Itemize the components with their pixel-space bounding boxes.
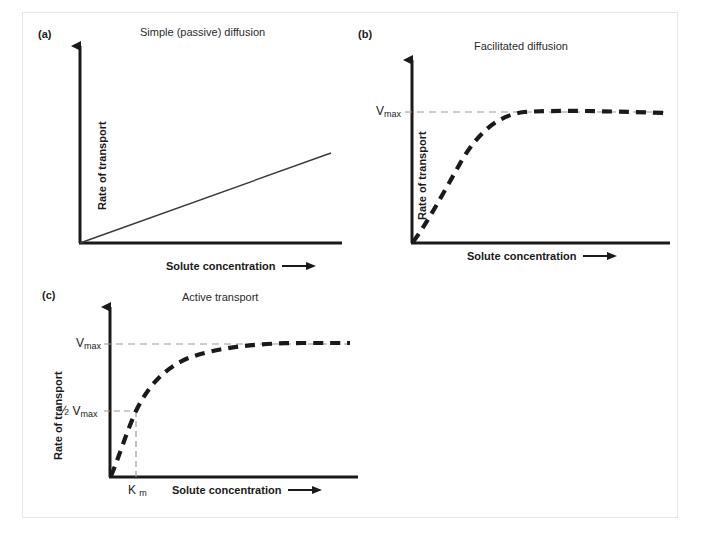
half-vmax-subscript-c: max xyxy=(80,409,97,419)
x-axis-label-text-b: Solute concentration xyxy=(467,250,576,262)
y-axis-label-a: Rate of transport xyxy=(96,121,108,210)
y-axis-label-b: Rate of transport xyxy=(416,131,428,220)
vmax-tick-label-c: Vmax xyxy=(76,336,101,350)
km-subscript-c: m xyxy=(139,488,147,498)
chart-panel-a: (a) Simple (passive) diffusion Rate of t… xyxy=(30,20,360,285)
chart-panel-b: (b) Facilitated diffusion Rate of transp… xyxy=(352,20,682,285)
vmax-subscript-c: max xyxy=(84,341,101,351)
right-arrow-icon xyxy=(583,252,617,261)
panel-letter-c: (c) xyxy=(42,289,55,301)
x-axis-label-b: Solute concentration xyxy=(467,250,617,262)
right-arrow-icon xyxy=(282,262,316,271)
panel-letter-b: (b) xyxy=(358,28,372,40)
chart-panel-c: (c) Active transport Rate of transport V… xyxy=(30,285,400,525)
x-axis-label-text-a: Solute concentration xyxy=(166,260,275,272)
half-vmax-tick-label-c: ½ Vmax xyxy=(58,403,98,418)
figure-root: (a) Simple (passive) diffusion Rate of t… xyxy=(0,0,702,537)
right-arrow-icon xyxy=(288,486,322,495)
half-fraction-glyph-c: ½ xyxy=(58,403,72,418)
panel-title-b: Facilitated diffusion xyxy=(474,40,568,52)
x-axis-label-text-c: Solute concentration xyxy=(172,484,281,496)
plot-area-b xyxy=(352,20,682,285)
vmax-subscript-b: max xyxy=(384,109,401,119)
vmax-tick-label-b: Vmax xyxy=(376,104,401,118)
vmax-symbol-c: V xyxy=(76,336,84,350)
panel-title-c: Active transport xyxy=(182,291,258,303)
vmax-symbol-b: V xyxy=(376,104,384,118)
diffusion-curve-a xyxy=(80,153,331,243)
facilitated-diffusion-curve-b xyxy=(413,111,664,242)
km-symbol-c: K xyxy=(128,483,139,497)
plot-area-a xyxy=(30,20,360,285)
x-axis-label-a: Solute concentration xyxy=(166,260,316,272)
x-axis-label-c: Solute concentration xyxy=(172,484,322,496)
active-transport-curve-c xyxy=(111,343,350,476)
km-tick-label-c: K m xyxy=(128,483,147,497)
panel-title-a: Simple (passive) diffusion xyxy=(140,26,265,38)
panel-letter-a: (a) xyxy=(38,28,51,40)
